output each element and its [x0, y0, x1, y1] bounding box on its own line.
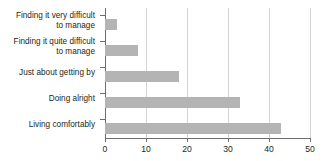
value-axis-line [105, 138, 311, 139]
bar [105, 123, 281, 134]
category-label-line: to manage [0, 47, 95, 57]
gridline [310, 8, 311, 138]
tick-mark [228, 138, 229, 142]
category-label-line: Finding it quite difficult [0, 37, 95, 47]
tick-label: 50 [305, 144, 315, 154]
bar [105, 97, 240, 108]
category-label: Finding it very difficult to manage [0, 11, 95, 32]
tick-label: 10 [141, 144, 151, 154]
category-label: Doing alright [0, 94, 95, 104]
category-label-line: to manage [0, 21, 95, 31]
tick-label: 40 [264, 144, 274, 154]
bar [105, 45, 138, 56]
category-label-column: Finding it very difficult to manage Find… [0, 8, 99, 138]
bar [105, 71, 179, 82]
tick-label: 0 [103, 144, 108, 154]
category-label: Finding it quite difficult to manage [0, 37, 95, 58]
bar [105, 19, 117, 30]
category-label-line: Living comfortably [0, 120, 95, 130]
plot-area [105, 8, 310, 138]
category-label-line: Finding it very difficult [0, 11, 95, 21]
tick-label: 20 [182, 144, 192, 154]
gridline [269, 8, 270, 138]
tick-mark [269, 138, 270, 142]
bar-chart: Finding it very difficult to manage Find… [0, 0, 329, 161]
tick-mark [310, 138, 311, 142]
tick-label: 30 [223, 144, 233, 154]
category-label: Living comfortably [0, 120, 95, 130]
gridline [187, 8, 188, 138]
tick-mark [146, 138, 147, 142]
category-label-line: Doing alright [0, 94, 95, 104]
gridline [228, 8, 229, 138]
category-label: Just about getting by [0, 68, 95, 78]
tick-mark [187, 138, 188, 142]
tick-mark [105, 138, 106, 142]
category-label-line: Just about getting by [0, 68, 95, 78]
